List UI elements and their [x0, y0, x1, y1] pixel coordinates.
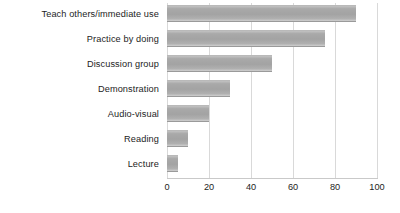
category-label: Teach others/immediate use: [0, 9, 159, 19]
x-tick-label: 0: [164, 181, 169, 193]
x-tick-label: 40: [246, 181, 256, 193]
category-label: Demonstration: [0, 84, 159, 94]
x-tick-label: 60: [288, 181, 298, 193]
x-tick-label: 80: [330, 181, 340, 193]
gridline: [335, 3, 336, 178]
bar: [167, 80, 230, 97]
x-axis-tick-labels: 020406080100: [0, 181, 400, 201]
category-label: Audio-visual: [0, 109, 159, 119]
category-label: Discussion group: [0, 59, 159, 69]
bar: [167, 155, 178, 172]
bar-chart: Teach others/immediate usePractice by do…: [0, 0, 400, 213]
plot-area: [167, 3, 377, 178]
x-axis-line: [167, 178, 378, 179]
category-label: Practice by doing: [0, 34, 159, 44]
bar: [167, 5, 356, 22]
x-tick-label: 100: [369, 181, 384, 193]
category-label: Reading: [0, 134, 159, 144]
gridline: [377, 3, 378, 178]
bar: [167, 130, 188, 147]
x-tick-label: 20: [204, 181, 214, 193]
bar: [167, 55, 272, 72]
bar: [167, 30, 325, 47]
category-label: Lecture: [0, 159, 159, 169]
category-axis-labels: Teach others/immediate usePractice by do…: [0, 0, 163, 178]
bar: [167, 105, 209, 122]
